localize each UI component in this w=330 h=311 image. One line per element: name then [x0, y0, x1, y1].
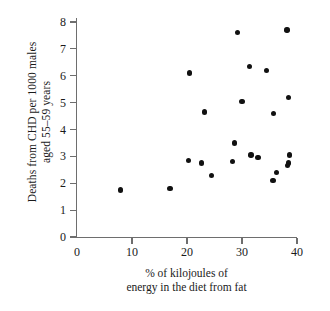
data-point: [167, 186, 172, 191]
data-point: [232, 140, 237, 145]
data-point: [186, 158, 191, 163]
data-point: [285, 163, 290, 168]
data-point: [209, 173, 214, 178]
scatter-plot-figure: Deaths from CHD per 1000 males aged 55–5…: [0, 0, 330, 311]
data-point: [287, 152, 292, 157]
data-point: [199, 160, 204, 165]
plot-area: [0, 0, 330, 311]
data-point: [235, 30, 240, 35]
x-axis-title: % of kilojoules of energy in the diet fr…: [76, 266, 297, 294]
data-point: [187, 70, 192, 75]
data-point: [271, 111, 276, 116]
data-point: [118, 187, 123, 192]
data-point: [264, 68, 269, 73]
data-point: [230, 159, 235, 164]
data-point: [248, 152, 253, 157]
data-point: [247, 64, 252, 69]
data-point: [286, 95, 291, 100]
data-point: [255, 155, 260, 160]
data-point: [284, 27, 289, 32]
data-point: [202, 109, 207, 114]
data-point: [274, 170, 279, 175]
data-point: [270, 178, 275, 183]
data-point: [239, 99, 244, 104]
